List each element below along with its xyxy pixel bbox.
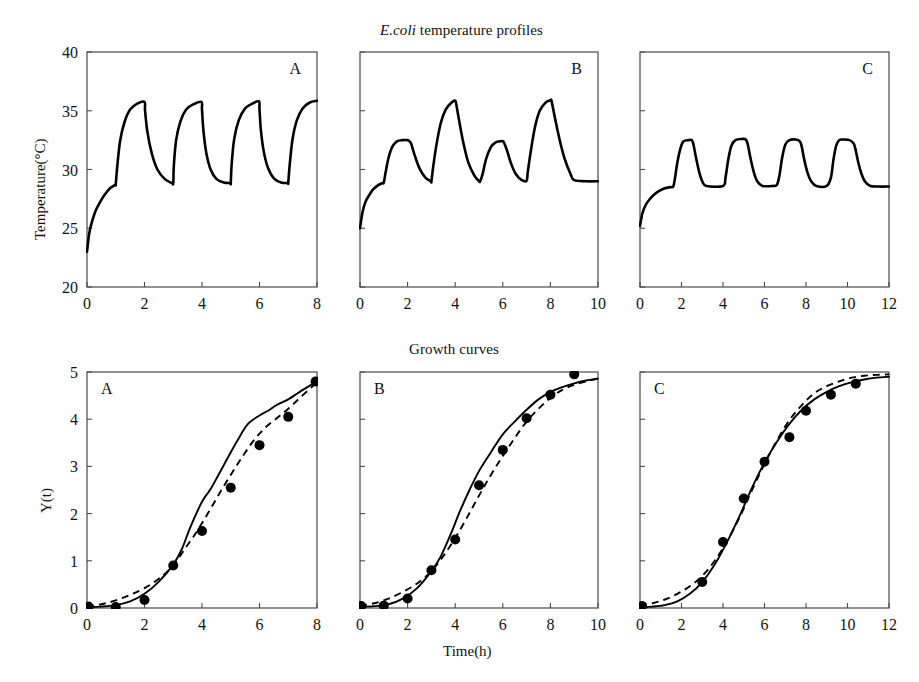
panel-letter: C [862, 60, 873, 77]
y-tick-label: 25 [62, 220, 78, 237]
panel-letter: B [571, 60, 582, 77]
data-point [760, 457, 770, 467]
bottom-row-title: Growth curves [409, 341, 499, 358]
x-tick-label: 0 [83, 295, 91, 312]
x-tick-label: 8 [546, 616, 554, 633]
data-point [801, 406, 811, 416]
chart-growth-curve-c: 024681012C [600, 358, 910, 643]
data-point [637, 601, 647, 611]
data-point [255, 440, 265, 450]
x-tick-label: 6 [499, 295, 507, 312]
chart-growth-curve-b: 0246810B [320, 358, 620, 643]
data-point [426, 565, 436, 575]
data-point [450, 535, 460, 545]
growth-solid-curve [360, 379, 598, 607]
panel-letter: B [374, 380, 385, 397]
x-tick-label: 12 [881, 295, 897, 312]
chart-growth-curve-a: 02468012345A [40, 358, 340, 643]
data-point [522, 413, 532, 423]
x-tick-label: 6 [761, 295, 769, 312]
x-tick-label: 6 [256, 616, 264, 633]
plot-frame [87, 52, 317, 287]
x-tick-label: 8 [802, 616, 810, 633]
x-tick-label: 12 [881, 616, 897, 633]
x-tick-label: 2 [141, 295, 149, 312]
plot-frame [640, 372, 889, 608]
panel-letter: A [101, 380, 113, 397]
x-tick-label: 4 [451, 616, 459, 633]
x-tick-label: 2 [141, 616, 149, 633]
x-tick-label: 0 [636, 616, 644, 633]
y-tick-label: 3 [70, 458, 78, 475]
temperature-trace [360, 100, 598, 229]
data-point [545, 390, 555, 400]
data-point [226, 483, 236, 493]
figure-root: E.coli temperature profiles Temperature(… [0, 0, 919, 682]
y-tick-label: 35 [62, 103, 78, 120]
y-tick-label: 5 [70, 364, 78, 381]
data-point [283, 412, 293, 422]
panel-letter: A [289, 60, 301, 77]
temperature-trace [87, 101, 317, 252]
y-tick-label: 20 [62, 279, 78, 296]
y-tick-label: 1 [70, 553, 78, 570]
x-tick-label: 6 [761, 616, 769, 633]
growth-x-axis-label: Time(h) [443, 643, 492, 660]
growth-dashed-curve [87, 382, 317, 606]
data-point [739, 493, 749, 503]
data-point [826, 390, 836, 400]
data-point [697, 577, 707, 587]
chart-temperature-profile-a: 024682025303540A [40, 38, 340, 318]
chart-temperature-profile-c: 024681012C [600, 38, 910, 318]
y-tick-label: 2 [70, 506, 78, 523]
x-tick-label: 10 [840, 295, 856, 312]
data-point [784, 432, 794, 442]
x-tick-label: 0 [83, 616, 91, 633]
temperature-trace [640, 139, 889, 226]
data-point [140, 595, 150, 605]
x-tick-label: 2 [404, 295, 412, 312]
x-tick-label: 2 [678, 616, 686, 633]
top-row-title-rest: temperature profiles [416, 22, 543, 38]
x-tick-label: 8 [546, 295, 554, 312]
data-point [168, 561, 178, 571]
data-point [851, 379, 861, 389]
y-tick-label: 0 [70, 600, 78, 617]
chart-temperature-profile-b: 0246810B [320, 38, 620, 318]
panel-letter: C [654, 380, 665, 397]
plot-frame [360, 52, 598, 287]
x-tick-label: 4 [451, 295, 459, 312]
growth-solid-curve [87, 381, 317, 607]
growth-solid-curve [640, 377, 889, 607]
data-point [356, 601, 366, 611]
data-point [498, 445, 508, 455]
data-point [111, 602, 121, 612]
x-tick-label: 4 [198, 616, 206, 633]
y-tick-label: 40 [62, 44, 78, 61]
data-point [83, 602, 93, 612]
data-point [474, 480, 484, 490]
x-tick-label: 4 [719, 616, 727, 633]
x-tick-label: 6 [499, 616, 507, 633]
x-tick-label: 0 [356, 295, 364, 312]
growth-dashed-curve [360, 379, 598, 606]
x-tick-label: 0 [636, 295, 644, 312]
x-tick-label: 6 [256, 295, 264, 312]
top-row-title: E.coli temperature profiles [380, 22, 543, 39]
growth-dashed-curve [640, 374, 889, 605]
plot-frame [87, 372, 317, 608]
data-point [718, 537, 728, 547]
x-tick-label: 2 [404, 616, 412, 633]
data-point [569, 369, 579, 379]
x-tick-label: 2 [678, 295, 686, 312]
x-tick-label: 4 [719, 295, 727, 312]
x-tick-label: 10 [840, 616, 856, 633]
data-point [197, 526, 207, 536]
x-tick-label: 0 [356, 616, 364, 633]
y-tick-label: 30 [62, 162, 78, 179]
x-tick-label: 4 [198, 295, 206, 312]
top-row-title-italic: E.coli [380, 22, 416, 38]
x-tick-label: 8 [802, 295, 810, 312]
data-point [379, 601, 389, 611]
y-tick-label: 4 [70, 411, 78, 428]
